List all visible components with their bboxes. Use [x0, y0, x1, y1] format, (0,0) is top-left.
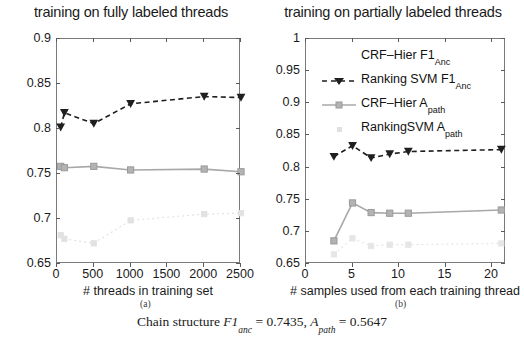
- data-point-marker: [368, 209, 374, 215]
- axes-a: [56, 38, 240, 263]
- chart-legend: CRF–Hier F1AncRanking SVM F1AncCRF–Hier …: [320, 45, 471, 141]
- data-point-marker: [62, 236, 67, 241]
- data-point-marker: [406, 242, 411, 247]
- legend-marker-icon: [320, 98, 358, 112]
- series-canvas-a: [57, 39, 241, 264]
- x-tick-mark: [491, 38, 492, 42]
- y-tick-mark: [501, 102, 505, 103]
- y-tick-mark: [305, 231, 309, 232]
- y-tick-mark: [56, 128, 60, 129]
- y-tick-mark: [305, 199, 309, 200]
- y-tick-mark: [501, 231, 505, 232]
- legend-item: RankingSVM Apath: [320, 117, 471, 141]
- x-tick-label: 1500: [152, 267, 180, 281]
- legend-marker-icon: [320, 74, 358, 88]
- chart-title-b: training on partially labeled threads: [262, 4, 524, 20]
- y-tick-label: 0.8: [283, 160, 300, 174]
- data-point-marker: [499, 241, 504, 246]
- y-tick-mark: [501, 70, 505, 71]
- legend-label-subscript: path: [428, 105, 446, 115]
- plot-area-b: CRF–Hier F1AncRanking SVM F1AncCRF–Hier …: [305, 38, 505, 263]
- data-point-marker: [91, 241, 96, 246]
- x-tick-label: 15: [438, 267, 452, 281]
- legend-label-subscript: Anc: [435, 57, 451, 67]
- caption-prefix: Chain structure: [137, 314, 223, 329]
- y-tick-mark: [501, 199, 505, 200]
- series-dotted-faint: [331, 236, 504, 257]
- y-tick-label: 0.85: [276, 127, 300, 141]
- data-point-marker: [405, 210, 411, 216]
- y-tick-label: 0.65: [27, 256, 51, 270]
- data-point-marker: [331, 238, 337, 244]
- legend-label: RankingSVM Apath: [361, 121, 463, 137]
- x-tick-label: 0: [53, 267, 60, 281]
- y-tick-mark: [501, 263, 505, 264]
- data-point-marker: [369, 243, 374, 248]
- y-tick-mark: [305, 102, 309, 103]
- x-tick-label: 500: [82, 267, 103, 281]
- data-point-marker: [60, 109, 69, 117]
- y-tick-mark: [501, 38, 505, 39]
- legend-item: Ranking SVM F1Anc: [320, 69, 471, 93]
- chart-panel-a: training on fully labeled threads 0.650.…: [0, 0, 262, 292]
- y-tick-label: 0.9: [283, 95, 300, 109]
- legend-marker-icon: [320, 122, 358, 136]
- series-dashed-triangle-dark: [56, 93, 245, 132]
- x-tick-mark: [93, 38, 94, 42]
- figure-caption: Chain structure F1anc = 0.7435, Apath = …: [0, 314, 524, 332]
- x-tick-label: 1000: [116, 267, 144, 281]
- data-point-marker: [387, 210, 393, 216]
- y-tick-mark: [56, 218, 60, 219]
- y-tick-label: 0.65: [276, 256, 300, 270]
- series-dashed-triangle-dark: [330, 142, 506, 162]
- data-point-marker: [91, 163, 97, 169]
- legend-label-subscript: Anc: [455, 81, 471, 91]
- y-tick-label: 0.75: [276, 192, 300, 206]
- caption-metric1-sub: anc: [238, 325, 252, 335]
- data-point-marker: [498, 207, 504, 213]
- y-tick-label: 0.7: [34, 211, 51, 225]
- x-tick-label: 2000: [189, 267, 217, 281]
- chart-panel-b: training on partially labeled threads CR…: [262, 0, 524, 292]
- x-tick-label: 2500: [226, 267, 254, 281]
- figure-container: training on fully labeled threads 0.650.…: [0, 0, 524, 359]
- x-tick-mark: [166, 38, 167, 42]
- caption-metric2: A: [310, 314, 318, 329]
- y-tick-label: 0.8: [34, 121, 51, 135]
- data-point-marker: [349, 200, 355, 206]
- y-tick-label: 0.95: [276, 63, 300, 77]
- y-tick-label: 0.75: [27, 166, 51, 180]
- data-point-marker: [89, 120, 98, 128]
- data-point-marker: [126, 100, 135, 108]
- y-tick-label: 0.9: [34, 31, 51, 45]
- legend-item: CRF–Hier Apath: [320, 93, 471, 117]
- subfigure-label-b: (b): [395, 299, 406, 309]
- y-tick-mark: [501, 134, 505, 135]
- caption-metric1-eq: = 0.7435,: [252, 314, 310, 329]
- data-point-marker: [128, 218, 133, 223]
- y-tick-mark: [305, 134, 309, 135]
- y-tick-mark: [236, 173, 240, 174]
- x-tick-label: 10: [391, 267, 405, 281]
- y-tick-label: 0.85: [27, 76, 51, 90]
- subfigure-label-a: (a): [140, 299, 151, 309]
- series-solid-square-gray: [58, 163, 245, 175]
- chart-title-a: training on fully labeled threads: [0, 4, 262, 20]
- data-point-marker: [331, 252, 336, 257]
- caption-area: (a) (b) Chain structure F1anc = 0.7435, …: [0, 292, 524, 359]
- caption-metric1: F1: [223, 314, 238, 329]
- y-tick-mark: [56, 83, 60, 84]
- data-point-marker: [202, 211, 207, 216]
- data-point-marker: [238, 211, 243, 216]
- caption-metric2-eq: = 0.5647: [335, 314, 387, 329]
- legend-label: Ranking SVM F1Anc: [361, 73, 471, 89]
- data-point-marker: [128, 167, 134, 173]
- y-tick-mark: [501, 167, 505, 168]
- series-solid-square-gray: [331, 200, 505, 244]
- series-dotted-faint: [58, 211, 244, 246]
- data-point-marker: [348, 142, 357, 150]
- legend-label: CRF–Hier Apath: [361, 97, 445, 113]
- y-tick-mark: [236, 83, 240, 84]
- x-tick-mark: [203, 38, 204, 42]
- y-tick-label: 0.7: [283, 224, 300, 238]
